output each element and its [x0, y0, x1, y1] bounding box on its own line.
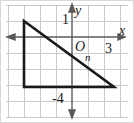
- y-axis-label: y: [75, 4, 81, 18]
- tick-label-one: 1: [62, 13, 69, 27]
- x-axis-label: x: [119, 24, 125, 38]
- hypotenuse-label: n: [85, 52, 91, 63]
- tick-label-minus-four: -4: [52, 92, 64, 106]
- origin-label: O: [75, 40, 85, 54]
- coordinate-plane-figure: y x 1 O 3 n -4: [0, 0, 134, 123]
- tick-label-three: 3: [105, 42, 112, 56]
